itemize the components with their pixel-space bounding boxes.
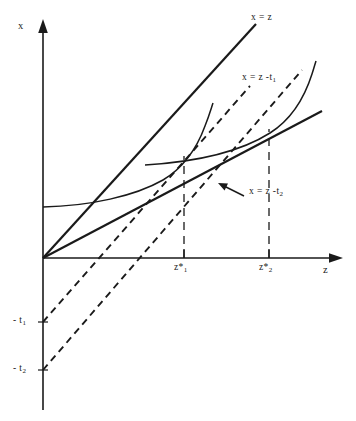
y-axis-arrowhead [38,19,48,33]
curve-value-function-high [145,61,316,165]
x-axis-arrowhead [329,253,343,263]
curve-label-t2-subscript: 2 [279,190,283,198]
y-tick-label-t2-subscript: 2 [22,367,26,375]
y-tick-label-t2: - t2 [13,363,26,375]
y-tick-label-t1-subscript: 1 [22,319,26,327]
diagram-svg [0,0,356,421]
diagram-canvas: x z x = z x = z -t1 x = z -t2 z*1 z*2 - … [0,0,356,421]
curve-label-t2-text: x = z -t [249,186,279,196]
curve-value-function-low [43,103,213,207]
x-tick-label-z2: z*2 [259,262,273,274]
curve-tangent-line [43,111,322,258]
y-tick-label-t2-text: - t [13,363,22,373]
callout-arrow-shaft [224,186,244,196]
x-tick-label-z1-text: z* [174,262,184,272]
curve-label-x-equals-z-minus-t1: x = z -t1 [242,72,276,84]
x-tick-label-z1-subscript: 1 [184,266,188,274]
x-tick-label-z2-subscript: 2 [269,266,273,274]
curve-label-t1-subscript: 1 [272,76,276,84]
x-tick-label-z2-text: z* [259,262,269,272]
y-tick-label-t1: - t1 [13,315,26,327]
callout-arrow [218,183,244,196]
curve-label-t1-text: x = z -t [242,72,272,82]
tick-group [38,249,269,370]
y-tick-label-t1-text: - t [13,315,22,325]
curve-label-x-equals-z-minus-t2: x = z -t2 [249,186,283,198]
y-axis-label: x [18,20,24,31]
x-tick-label-z1: z*1 [174,262,188,274]
x-axis-label: z [323,264,328,275]
curve-label-x-equals-z: x = z [251,12,272,22]
curve-x-equals-z [43,24,256,258]
